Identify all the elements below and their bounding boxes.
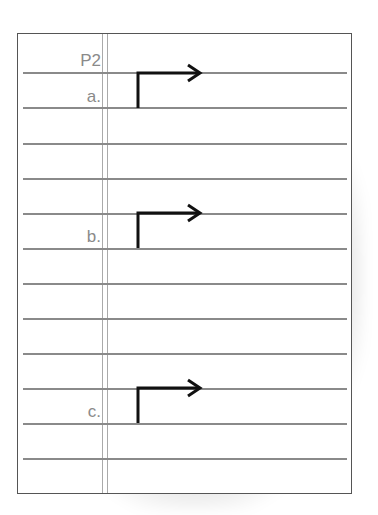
- rule-line: [23, 283, 347, 285]
- lined-paper: P2 a. b. c.: [17, 33, 352, 494]
- right-angle-arrow-icon: [136, 380, 206, 426]
- item-label-c: c.: [31, 402, 101, 422]
- item-label-b: b.: [31, 227, 101, 247]
- rule-line: [23, 458, 347, 460]
- rule-line: [23, 143, 347, 145]
- item-label-a: a.: [31, 87, 101, 107]
- rule-line: [23, 178, 347, 180]
- right-angle-arrow-icon: [136, 64, 206, 110]
- page-label: P2: [31, 51, 101, 71]
- right-angle-arrow-icon: [136, 205, 206, 251]
- rule-line: [23, 318, 347, 320]
- rule-line: [23, 353, 347, 355]
